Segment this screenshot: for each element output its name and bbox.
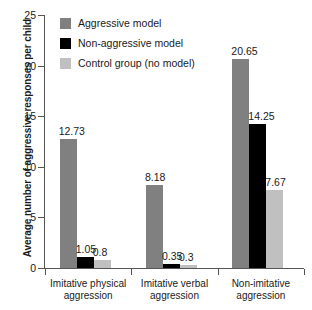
y-axis-tick (38, 66, 44, 67)
x-axis-category-label: Non-imitativeaggression (218, 278, 304, 302)
bar (180, 265, 197, 268)
legend-item[interactable]: Non-aggressive model (60, 34, 195, 52)
bar-value-label: 0.3 (179, 252, 194, 263)
legend-item-label: Aggressive model (78, 17, 161, 29)
y-axis-tick (38, 217, 44, 218)
bar (60, 139, 77, 268)
y-axis-tick-label: 5 (0, 212, 36, 222)
bar-value-label: 0.8 (93, 247, 108, 258)
y-axis-tick (38, 116, 44, 117)
legend-item-label: Non-aggressive model (78, 37, 183, 49)
x-axis-category-label: Imitative verbalaggression (131, 278, 217, 302)
legend-item[interactable]: Control group (no model) (60, 54, 195, 72)
y-axis-tick-label: 25 (0, 10, 36, 20)
bar (232, 59, 249, 268)
y-axis-tick (38, 167, 44, 168)
y-axis-tick-label: 10 (0, 162, 36, 172)
bar (94, 260, 111, 268)
y-axis-tick-label: 20 (0, 61, 36, 71)
y-axis-tick (38, 15, 44, 16)
bar-group: 20.6514.257.67 (218, 15, 304, 268)
legend-swatch-icon (60, 58, 71, 69)
category-label-line: aggression (131, 290, 217, 302)
y-axis-tick-label: 0 (0, 263, 36, 273)
bar-value-label: 8.18 (145, 172, 165, 183)
category-label-line: aggression (45, 290, 131, 302)
bar (249, 124, 266, 268)
bar-value-label: 12.73 (59, 126, 85, 137)
x-axis-line (44, 268, 304, 269)
bar (163, 264, 180, 268)
x-axis-tick (304, 269, 305, 275)
legend-swatch-icon (60, 38, 71, 49)
bar (146, 185, 163, 268)
legend-item-label: Control group (no model) (78, 57, 195, 69)
category-label-line: Imitative verbal (131, 278, 217, 290)
bar-chart: Average number of aggressive responses p… (0, 0, 312, 310)
category-label-line: Imitative physical (45, 278, 131, 290)
x-axis-tick (45, 269, 46, 275)
bar-value-label: 7.67 (265, 177, 285, 188)
category-label-line: aggression (218, 290, 304, 302)
x-axis-tick (218, 269, 219, 275)
x-axis-category-label: Imitative physicalaggression (45, 278, 131, 302)
bar (77, 257, 94, 268)
y-axis-title: Average number of aggressive responses p… (21, 4, 35, 272)
y-axis-tick-label: 15 (0, 111, 36, 121)
chart-legend: Aggressive modelNon-aggressive modelCont… (60, 14, 195, 74)
bar-value-label: 14.25 (248, 111, 274, 122)
y-axis-tick (38, 268, 44, 269)
x-axis-tick (131, 269, 132, 275)
legend-item[interactable]: Aggressive model (60, 14, 195, 32)
bar-value-label: 20.65 (231, 46, 257, 57)
legend-swatch-icon (60, 18, 71, 29)
category-label-line: Non-imitative (218, 278, 304, 290)
bar (266, 190, 283, 268)
